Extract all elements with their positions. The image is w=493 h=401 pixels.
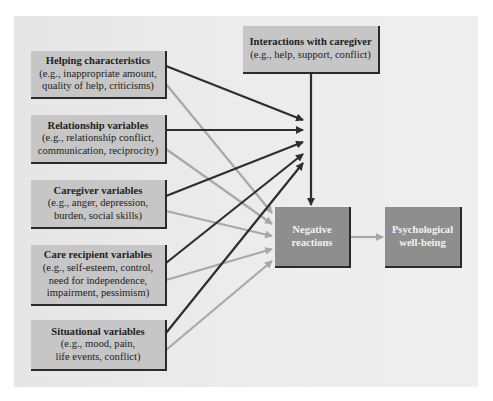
node-title: Relationship variables	[48, 120, 149, 133]
node-detail: burden, social skills)	[54, 210, 142, 223]
node-relationship-variables: Relationship variables (e.g., relationsh…	[31, 115, 167, 164]
node-detail: (e.g., self-esteem, control,	[43, 262, 153, 275]
node-title: Situational variables	[51, 326, 144, 339]
node-line: well-being	[399, 237, 446, 250]
node-line: reactions	[292, 237, 333, 250]
light-arrows	[166, 84, 272, 350]
node-detail: (e.g., mood, pain,	[61, 338, 135, 351]
node-title: Caregiver variables	[54, 185, 143, 198]
node-detail: need for independence,	[49, 275, 148, 288]
node-line: Negative	[292, 224, 331, 237]
node-helping-characteristics: Helping characteristics (e.g., inappropr…	[31, 51, 167, 99]
node-detail: quality of help, criticisms)	[42, 80, 154, 93]
node-detail: life events, conflict)	[55, 351, 140, 364]
node-negative-reactions: Negative reactions	[275, 207, 351, 268]
node-detail: (e.g., relationship conflict,	[42, 132, 154, 145]
node-detail: (e.g., inappropriate amount,	[39, 68, 157, 81]
node-care-recipient-variables: Care recipient variables (e.g., self-est…	[31, 245, 167, 306]
node-detail: (e.g., help, support, conflict)	[250, 49, 371, 62]
node-detail: communication, reciprocity)	[38, 145, 159, 158]
node-interactions-with-caregiver: Interactions with caregiver (e.g., help,…	[243, 26, 380, 74]
node-caregiver-variables: Caregiver variables (e.g., anger, depres…	[31, 180, 167, 229]
node-title: Interactions with caregiver	[249, 36, 371, 49]
node-situational-variables: Situational variables (e.g., mood, pain,…	[31, 320, 167, 371]
node-title: Care recipient variables	[44, 249, 152, 262]
node-line: Psychological	[392, 224, 453, 237]
node-detail: (e.g., anger, depression,	[48, 197, 148, 210]
node-psychological-well-being: Psychological well-being	[385, 207, 462, 268]
node-title: Helping characteristics	[46, 55, 150, 68]
node-detail: impairment, pessimism)	[47, 287, 149, 300]
